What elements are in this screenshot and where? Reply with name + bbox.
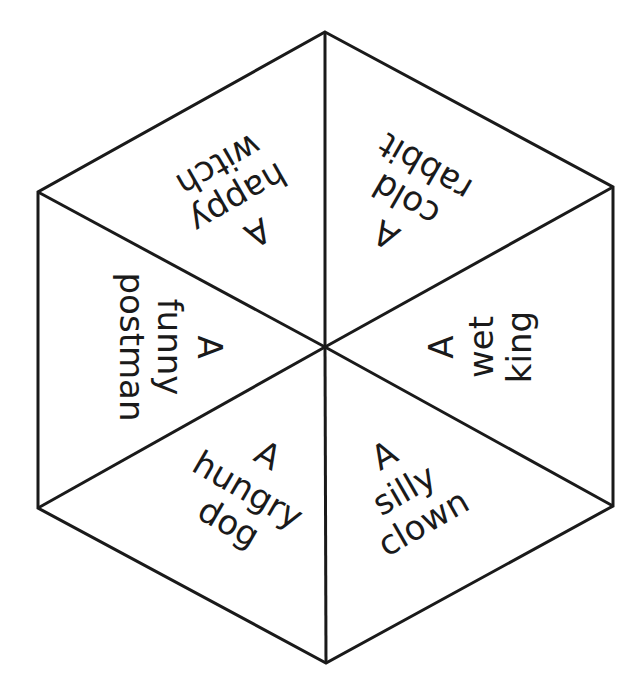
segment-text-line-2: funny xyxy=(150,299,190,396)
segment-text-line-3: postman xyxy=(112,273,152,422)
segment-text-line-1: A xyxy=(190,335,230,358)
hexagon-diagram: A happy witch A cold rabbit A wet king A… xyxy=(0,0,640,690)
segment-text-line-3: king xyxy=(499,311,539,383)
segment-text-line-2: wet xyxy=(461,316,501,378)
segment-text-line-1: A xyxy=(421,335,461,358)
